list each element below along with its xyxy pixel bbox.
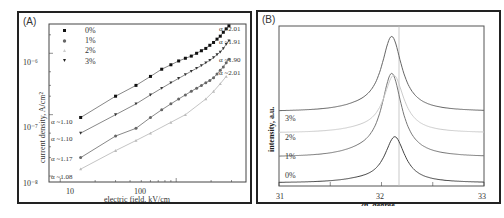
data-point [195,87,198,90]
data-point [169,102,172,105]
y-axis-label: intensity, a.u. [267,107,276,152]
data-point [204,81,207,84]
data-point [114,113,117,116]
x-tick-33: 33 [478,192,486,201]
data-point [204,47,207,50]
data-point [177,59,180,62]
data-point [195,52,198,55]
alpha-right-3: α ~1.91 [219,38,241,46]
alpha-left-1: α ~1.17 [51,155,73,163]
data-point [190,90,193,93]
data-point [149,132,152,135]
data-point [160,108,163,111]
panel-b-xrd-chart: 31 32 33 2θ, degree intensity, a.u. 3% 2… [256,10,501,204]
legend-marker-3 [63,59,66,62]
x-tick-10: 10 [66,187,74,196]
data-point [160,87,163,90]
x-tick-31: 31 [276,192,284,201]
data-point [114,134,117,137]
data-point [212,76,215,79]
panel-a-current-density-chart: 10⁻⁶ 10⁻⁷ 10⁻⁸ 10 100 electric field, kV… [17,11,252,204]
xrd-curve-0% [279,137,484,183]
data-point [134,127,137,130]
data-point [149,75,152,78]
panel-a-axes-frame [49,24,246,182]
panel-a-ticks [49,35,232,182]
y-tick-1e-6: 10⁻⁶ [23,58,38,67]
curve-label-2: 2% [285,133,296,142]
alpha-right-0: α ~2.01 [219,25,241,33]
fit-line-2% [81,76,227,169]
alpha-right-2: α ~2.01 [219,69,241,77]
alpha-left-2: α ~1.08 [51,173,73,181]
data-point [222,65,225,68]
panel-a-label: (A) [23,16,36,27]
legend-label-1: 1% [85,36,96,45]
data-point [184,93,187,96]
data-point [200,84,203,87]
data-point [184,57,187,60]
data-point [134,84,137,87]
x-axis-label: 2θ, degree [360,201,395,206]
data-point [79,116,82,119]
data-point [149,116,152,119]
alpha-left-0: α ~1.10 [51,118,73,126]
legend-marker-2 [63,49,66,52]
data-point [79,156,82,159]
legend-marker-0 [63,29,66,32]
data-point [200,49,203,52]
panel-b-curves [279,36,484,182]
fit-line-3% [81,41,229,133]
data-point [79,132,82,135]
data-point [169,63,172,66]
data-point [114,95,117,98]
data-point [160,68,163,71]
y-tick-1e-8: 10⁻⁸ [23,179,38,188]
legend-marker-1 [63,39,66,42]
panel-b-label: (B) [262,14,275,25]
curve-label-0: 0% [285,171,296,180]
data-point [169,82,172,85]
panel-a-plot-svg: 10⁻⁶ 10⁻⁷ 10⁻⁸ 10 100 electric field, kV… [19,13,254,206]
data-point [177,77,180,80]
xrd-curve-1% [279,73,484,156]
curve-label-3: 3% [285,114,296,123]
data-point [208,44,211,47]
panel-b-ticks [279,182,484,186]
data-point [177,97,180,100]
data-point [190,70,193,73]
legend-label-0: 0% [85,26,96,35]
data-point [212,41,215,44]
data-point [184,73,187,76]
xrd-curve-2% [279,75,484,132]
alpha-left-3: α ~1.10 [51,135,73,143]
legend: 0% 1% 2% 3% [63,26,96,66]
data-point [200,64,203,67]
curve-label-1: 1% [285,152,296,161]
fit-line-0% [81,26,229,118]
legend-label-2: 2% [85,46,96,55]
data-point [169,121,172,124]
data-point [134,103,137,106]
data-point [190,55,193,58]
panel-b-plot-svg: 31 32 33 2θ, degree intensity, a.u. 3% 2… [258,12,503,206]
y-tick-1e-7: 10⁻⁷ [23,123,38,132]
data-point [208,79,211,82]
legend-label-3: 3% [85,57,96,66]
xrd-curve-3% [279,36,484,110]
x-tick-32: 32 [376,192,384,201]
data-point [195,67,198,70]
x-axis-label: electric field, kV/cm [104,195,171,204]
y-axis-label: current density, A/cm² [38,91,47,163]
alpha-right-1: α ~1.90 [219,56,241,64]
